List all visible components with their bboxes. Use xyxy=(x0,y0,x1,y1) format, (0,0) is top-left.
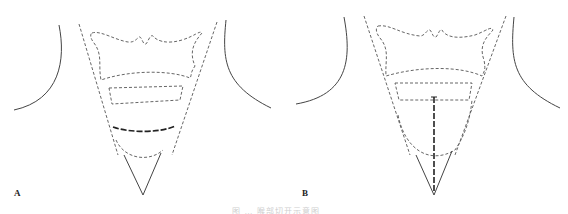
lower-curve-dashed xyxy=(398,100,472,156)
thyroid-cartilage-outline xyxy=(91,32,202,80)
sternal-v xyxy=(124,153,161,195)
right-shoulder-curve xyxy=(225,20,271,108)
figure-caption: 图 … 喉部切开示意图 xyxy=(232,205,342,214)
panel-label-a: A xyxy=(14,188,21,198)
lower-curve-dashed xyxy=(116,140,163,157)
outer-right-dashed xyxy=(172,22,217,155)
outer-right-dashed xyxy=(455,16,506,155)
outer-left-dashed xyxy=(79,24,118,155)
horizontal-incision-bold xyxy=(113,126,175,131)
diagram-canvas xyxy=(0,0,568,214)
right-shoulder-curve xyxy=(513,17,560,108)
cricoid-band xyxy=(109,86,183,104)
panel-b xyxy=(296,16,560,195)
left-shoulder-curve xyxy=(296,17,347,104)
outer-left-dashed xyxy=(364,16,410,155)
left-shoulder-curve xyxy=(14,25,61,110)
panel-a xyxy=(14,20,271,195)
panel-label-b: B xyxy=(302,188,308,198)
thyroid-cartilage-outline xyxy=(376,26,493,76)
